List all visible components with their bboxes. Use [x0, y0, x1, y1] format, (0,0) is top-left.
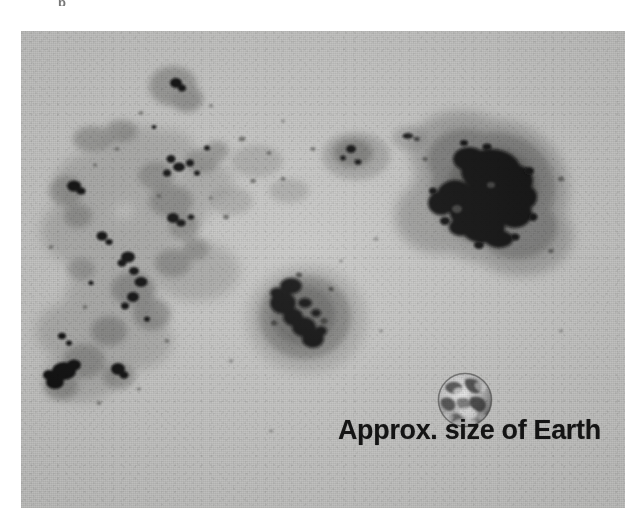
central-sunspot: [247, 265, 367, 373]
cropped-text-remnant: p: [58, 0, 92, 6]
page-root: p: [0, 0, 642, 523]
sunspot-photograph: Approx. size of Earth: [21, 31, 625, 508]
earth-size-caption: Approx. size of Earth: [338, 414, 595, 446]
large-sunspot: [395, 111, 573, 276]
left-sunspot-cluster: [36, 66, 240, 405]
